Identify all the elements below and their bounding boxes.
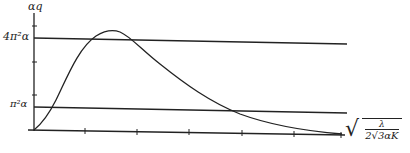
- x-axis: [28, 130, 345, 135]
- radical-sign: √: [345, 118, 359, 140]
- x-axis-denominator: 2√3αK: [365, 130, 398, 141]
- y-tick-label-lower: π²α: [10, 99, 27, 109]
- upper-level-line: [34, 38, 347, 44]
- lower-level-line: [34, 107, 347, 113]
- response-curve: [34, 31, 342, 134]
- y-tick-label-upper: 4π²α: [3, 31, 29, 42]
- x-axis-fraction: λ 2√3αK: [362, 118, 402, 141]
- x-axis-numerator: λ: [365, 119, 399, 130]
- y-axis-label: αq: [28, 1, 42, 12]
